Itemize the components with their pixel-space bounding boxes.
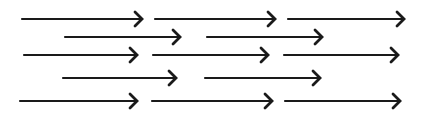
arrow-row-5 <box>20 94 400 108</box>
right-arrow-icon <box>153 48 268 62</box>
right-arrow-icon <box>205 71 320 85</box>
right-arrow-icon <box>285 94 400 108</box>
arrow-row-2 <box>65 30 322 44</box>
right-arrow-icon <box>24 48 137 62</box>
right-arrow-icon <box>288 12 404 26</box>
right-arrow-icon <box>65 30 180 44</box>
right-arrow-icon <box>152 94 272 108</box>
right-arrow-icon <box>20 94 137 108</box>
right-arrow-icon <box>284 48 398 62</box>
arrow-diagram <box>0 0 424 120</box>
arrows-layer <box>0 0 424 120</box>
right-arrow-icon <box>207 30 322 44</box>
right-arrow-icon <box>63 71 176 85</box>
arrow-row-4 <box>63 71 320 85</box>
arrow-row-3 <box>24 48 398 62</box>
arrow-row-1 <box>22 12 404 26</box>
right-arrow-icon <box>155 12 275 26</box>
right-arrow-icon <box>22 12 142 26</box>
